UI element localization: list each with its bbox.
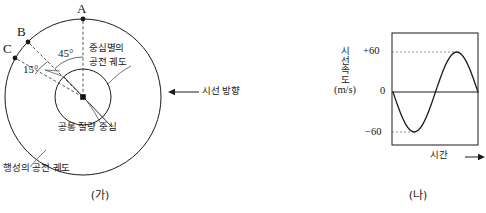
annotation-planet-orbit: 행성의 공전 궤도 [3, 163, 70, 174]
line-of-sight-arrow-head [168, 89, 175, 95]
radial-velocity-chart-svg [250, 0, 486, 175]
time-axis-arrow-head [478, 154, 485, 160]
barycenter-marker [80, 94, 86, 100]
angle-label-ab: 45° [58, 47, 73, 60]
annotation-star-orbit-line1: 중심별의 [89, 43, 124, 54]
angle-label-bc: 15° [23, 63, 38, 76]
xaxis-label: 시간 [430, 150, 448, 161]
point-marker-c [13, 56, 18, 61]
point-label-a: A [77, 2, 86, 17]
yaxis-label-unit: (m/s) [332, 85, 358, 96]
annotation-line-of-sight: 시선 방향 [202, 86, 240, 97]
chart-frame [392, 33, 478, 145]
point-label-b: B [17, 25, 26, 40]
annotation-barycenter: 공통 질량 중심 [58, 122, 116, 133]
annotation-star-orbit-line2: 공전 궤도 [89, 57, 127, 68]
panel-orbit-diagram: A B C 45° 15° 중심별의 공전 궤도 공통 질량 중심 행성의 공전… [0, 0, 250, 213]
point-marker-a [81, 17, 86, 22]
panel-radial-velocity-chart: +60 0 −60 시 선 속 도 (m/s) 시간 (나) [250, 0, 486, 213]
point-marker-b [26, 40, 31, 45]
ytick-label-plus60: +60 [363, 45, 379, 57]
ytick-label-zero: 0 [380, 85, 385, 97]
point-label-c: C [3, 42, 12, 57]
ytick-label-minus60: −60 [365, 126, 381, 138]
caption-left: (가) [0, 186, 200, 202]
figure-container: A B C 45° 15° 중심별의 공전 궤도 공통 질량 중심 행성의 공전… [0, 0, 486, 213]
yaxis-label-group: 시 선 속 도 (m/s) [332, 46, 358, 95]
caption-right: (나) [358, 186, 478, 202]
leader-star-orbit [107, 66, 131, 85]
